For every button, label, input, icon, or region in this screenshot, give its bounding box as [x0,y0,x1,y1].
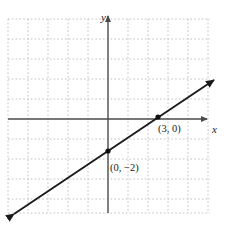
point-marker-y-intercept [105,148,110,153]
graph-figure: y x (3, 0) (0, −2) [0,0,227,230]
coordinate-plane [0,0,227,230]
point-marker-x-intercept [155,114,160,119]
axes [8,16,207,213]
x-axis-label: x [212,124,217,135]
point-label-x-intercept: (3, 0) [158,124,181,135]
plotted-line [14,80,214,214]
y-axis-label: y [101,12,106,23]
grid-lines [8,19,210,213]
point-label-y-intercept: (0, −2) [110,163,139,174]
